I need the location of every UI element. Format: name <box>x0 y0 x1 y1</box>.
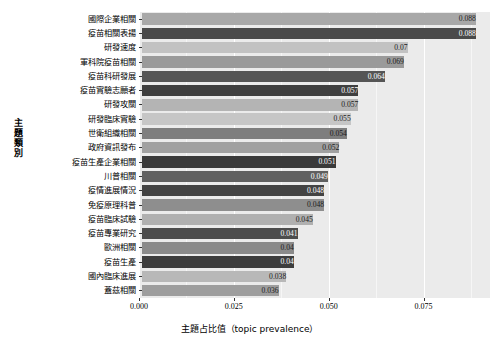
bar-value-label: 0.057 <box>142 99 361 110</box>
bar-track: 0.057 <box>142 98 490 112</box>
bar-value-label: 0.064 <box>142 71 387 82</box>
category-label: 軍科院疫苗相關 <box>32 58 139 67</box>
bar-value-label: 0.036 <box>142 285 281 296</box>
bar-value-label: 0.051 <box>142 156 338 167</box>
bar-value-label: 0.04 <box>142 256 296 267</box>
x-axis-tick <box>329 298 330 301</box>
x-axis-tick-label: 0.075 <box>415 302 433 311</box>
bar-row: 歐洲相關0.04 <box>32 241 490 255</box>
category-label: 疫苗相關表揚 <box>32 29 139 38</box>
bar-value-label: 0.055 <box>142 113 353 124</box>
bar-track: 0.04 <box>142 255 490 269</box>
bar-row: 免疫原理科普0.048 <box>32 198 490 212</box>
bar-track: 0.054 <box>142 126 490 140</box>
category-label: 川普相關 <box>32 172 139 181</box>
bar-value-label: 0.049 <box>142 171 330 182</box>
category-label: 研發攻關 <box>32 100 139 109</box>
bar-row: 國內臨床進展0.038 <box>32 269 490 283</box>
bar-track: 0.088 <box>142 26 490 40</box>
bar-track: 0.052 <box>142 141 490 155</box>
bar-row: 疫苗相關表揚0.088 <box>32 26 490 40</box>
bar-track: 0.036 <box>142 284 490 298</box>
bar-chart: 主題類別 國際企業相關0.088疫苗相關表揚0.088研發速度0.07軍科院疫苗… <box>0 0 499 346</box>
bar-row: 研發臨床實驗0.055 <box>32 112 490 126</box>
category-label: 免疫原理科普 <box>32 201 139 210</box>
bar-track: 0.069 <box>142 55 490 69</box>
bar-track: 0.055 <box>142 112 490 126</box>
bar-value-label: 0.048 <box>142 185 327 196</box>
bar-track: 0.07 <box>142 41 490 55</box>
x-axis-tick-label: 0.025 <box>225 302 243 311</box>
x-axis: 0.0000.0250.0500.075 <box>139 298 490 316</box>
bar-track: 0.048 <box>142 198 490 212</box>
bar-row: 蓋茲相關0.036 <box>32 284 490 298</box>
category-label: 疫苗科研發展 <box>32 72 139 81</box>
category-label: 政府資訊發布 <box>32 143 139 152</box>
bar-track: 0.049 <box>142 169 490 183</box>
bar-track: 0.064 <box>142 69 490 83</box>
category-label: 疫苗專業研究 <box>32 229 139 238</box>
category-label: 世衛組織相關 <box>32 129 139 138</box>
y-axis-title-char: 題 <box>10 128 26 138</box>
bar-track: 0.038 <box>142 269 490 283</box>
bar-value-label: 0.052 <box>142 142 342 153</box>
category-label: 疫苗生產 <box>32 258 139 267</box>
bar-row: 疫苗實驗志願者0.057 <box>32 83 490 97</box>
bar-value-label: 0.048 <box>142 199 327 210</box>
category-label: 研發速度 <box>32 43 139 52</box>
category-label: 國內臨床進展 <box>32 272 139 281</box>
y-axis-title: 主題類別 <box>10 118 26 158</box>
bar-value-label: 0.041 <box>142 228 300 239</box>
category-label: 蓋茲相關 <box>32 286 139 295</box>
bar-row: 疫苗生產企業相關0.051 <box>32 155 490 169</box>
bar-track: 0.041 <box>142 226 490 240</box>
bar-value-label: 0.057 <box>142 85 361 96</box>
x-axis-tick <box>234 298 235 301</box>
bar-track: 0.057 <box>142 83 490 97</box>
y-axis-title-char: 類 <box>10 138 26 148</box>
bar-value-label: 0.088 <box>142 13 478 24</box>
bar-row: 疫苗專業研究0.041 <box>32 226 490 240</box>
bar-row: 國際企業相關0.088 <box>32 12 490 26</box>
x-axis-tick <box>139 298 140 301</box>
category-label: 疫苗臨床試驗 <box>32 215 139 224</box>
bar-row: 研發攻關0.057 <box>32 98 490 112</box>
y-axis-title-char: 別 <box>10 148 26 158</box>
bar-value-label: 0.07 <box>142 42 410 53</box>
bar-row: 政府資訊發布0.052 <box>32 141 490 155</box>
bar-track: 0.088 <box>142 12 490 26</box>
bar-row: 研發速度0.07 <box>32 41 490 55</box>
x-axis-tick-label: 0.050 <box>320 302 338 311</box>
bar-track: 0.048 <box>142 184 490 198</box>
x-axis-tick <box>424 298 425 301</box>
category-label: 歐洲相關 <box>32 243 139 252</box>
bar-row: 軍科院疫苗相關0.069 <box>32 55 490 69</box>
bar-rows: 國際企業相關0.088疫苗相關表揚0.088研發速度0.07軍科院疫苗相關0.0… <box>32 12 490 298</box>
bar-track: 0.051 <box>142 155 490 169</box>
bar-value-label: 0.069 <box>142 56 406 67</box>
bar-row: 川普相關0.049 <box>32 169 490 183</box>
bar-row: 疫情進展情況0.048 <box>32 184 490 198</box>
bar-row: 疫苗臨床試驗0.045 <box>32 212 490 226</box>
x-axis-tick-label: 0.000 <box>130 302 148 311</box>
y-axis-title-char: 主 <box>10 118 26 128</box>
bar-row: 疫苗科研發展0.064 <box>32 69 490 83</box>
x-axis-title: 主題占比值（topic prevalence） <box>0 322 499 335</box>
bar-value-label: 0.038 <box>142 271 289 282</box>
category-label: 國際企業相關 <box>32 15 139 24</box>
bar-value-label: 0.045 <box>142 214 315 225</box>
bar-value-label: 0.054 <box>142 128 349 139</box>
bar-track: 0.045 <box>142 212 490 226</box>
category-label: 疫苗實驗志願者 <box>32 86 139 95</box>
category-label: 疫情進展情況 <box>32 186 139 195</box>
category-label: 研發臨床實驗 <box>32 115 139 124</box>
bar-row: 世衛組織相關0.054 <box>32 126 490 140</box>
bar-value-label: 0.04 <box>142 242 296 253</box>
bar-row: 疫苗生產0.04 <box>32 255 490 269</box>
bar-value-label: 0.088 <box>142 28 478 39</box>
category-label: 疫苗生產企業相關 <box>32 158 139 167</box>
bar-track: 0.04 <box>142 241 490 255</box>
